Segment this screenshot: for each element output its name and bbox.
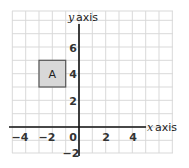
y-tick: 4 bbox=[69, 68, 77, 81]
x-tick: 4 bbox=[129, 131, 137, 144]
shape-a-label: A bbox=[49, 68, 57, 81]
shape-a: A bbox=[39, 60, 66, 87]
y-axis-word: axis bbox=[76, 11, 98, 24]
x-tick: 2 bbox=[102, 131, 110, 144]
y-tick: 6 bbox=[69, 42, 77, 55]
x-axis-word: axis bbox=[155, 121, 177, 134]
y-axis-var: y bbox=[67, 11, 75, 24]
y-tick: −2 bbox=[63, 147, 80, 160]
coordinate-plane: A y axis x axis −4 −2 0 2 4 6 4 2 −2 bbox=[0, 0, 189, 168]
y-tick: 2 bbox=[69, 95, 77, 108]
x-tick-labels: −4 −2 0 2 4 bbox=[12, 131, 138, 144]
x-axis-var: x bbox=[147, 121, 154, 134]
x-tick: −2 bbox=[39, 131, 56, 144]
x-tick: −4 bbox=[12, 131, 29, 144]
x-tick: 0 bbox=[69, 131, 77, 144]
